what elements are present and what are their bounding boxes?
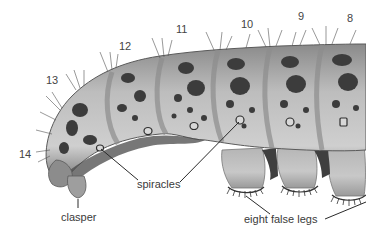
false-legs-label: eight false legs xyxy=(244,214,317,225)
false-legs xyxy=(222,146,366,206)
segment-number-10: 10 xyxy=(241,19,253,30)
false-legs-leader-left xyxy=(246,196,270,214)
false-legs-leader-right xyxy=(325,202,366,219)
false-leg-2 xyxy=(277,146,318,197)
false-leg-1 xyxy=(222,148,265,198)
segment-number-13: 13 xyxy=(46,75,58,86)
segment-number-14: 14 xyxy=(19,149,31,160)
segment-number-9: 9 xyxy=(298,11,304,22)
clasper-label: clasper xyxy=(61,212,96,223)
false-leg-3 xyxy=(327,146,366,206)
segment-number-12: 12 xyxy=(119,41,131,52)
caterpillar-illustration xyxy=(0,0,366,242)
segment-number-11: 11 xyxy=(176,24,187,35)
segment-number-8: 8 xyxy=(347,13,353,24)
caterpillar-diagram: 8 9 10 11 12 13 14 spiracles clasper eig… xyxy=(0,0,366,242)
spiracles-label: spiracles xyxy=(137,179,180,190)
